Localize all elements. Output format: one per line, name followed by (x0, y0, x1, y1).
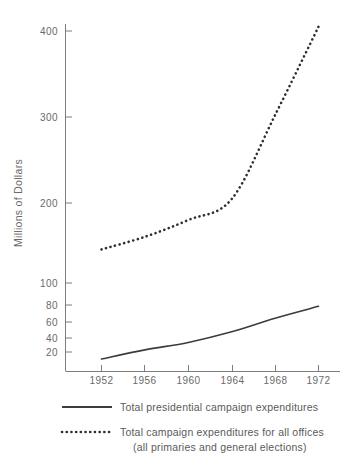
plot-area (102, 27, 319, 359)
y-tick-label-60: 60 (46, 317, 58, 328)
chart-figure: 400 300 200 100 80 60 40 20 Millions of … (0, 0, 354, 461)
series-all-offices-line (102, 27, 319, 250)
x-tick-label-1972: 1972 (307, 375, 331, 386)
chart-legend: Total presidential campaign expenditures… (62, 401, 324, 453)
legend-label-presidential: Total presidential campaign expenditures (120, 401, 318, 413)
x-tick-label-1964: 1964 (221, 375, 245, 386)
y-tick-label-40: 40 (46, 333, 58, 344)
x-tick-label-1956: 1956 (133, 375, 157, 386)
y-axis: 400 300 200 100 80 60 40 20 Millions of … (12, 24, 72, 371)
y-tick-label-20: 20 (46, 347, 58, 358)
y-tick-label-200: 200 (40, 198, 58, 209)
legend-label-all-offices-sub: (all primaries and general elections) (133, 441, 307, 453)
y-tick-label-300: 300 (40, 112, 58, 123)
x-axis: 1952 1956 1960 1964 1968 1972 (66, 365, 341, 386)
x-tick-label-1968: 1968 (264, 375, 288, 386)
x-tick-label-1960: 1960 (177, 375, 201, 386)
x-tick-label-1952: 1952 (90, 375, 114, 386)
series-presidential-line (102, 306, 319, 359)
y-tick-label-80: 80 (46, 300, 58, 311)
y-tick-label-100: 100 (40, 278, 58, 289)
y-tick-label-400: 400 (40, 26, 58, 37)
legend-label-all-offices: Total campaign expenditures for all offi… (120, 426, 324, 438)
y-axis-title: Millions of Dollars (12, 159, 24, 247)
